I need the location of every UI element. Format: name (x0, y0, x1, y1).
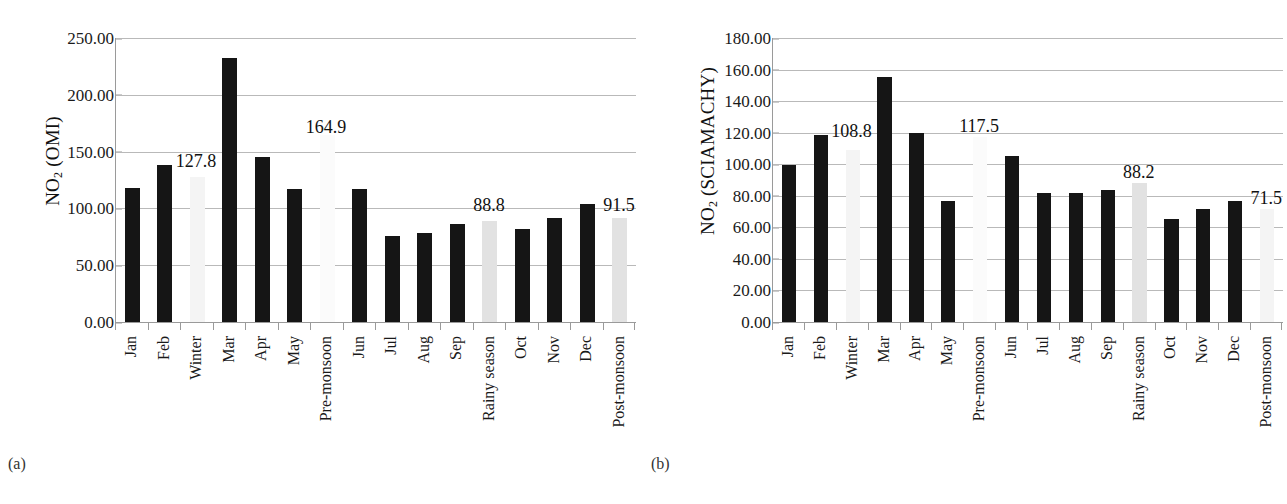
x-axis-label: Jul (1035, 336, 1051, 355)
x-axis-label: Winter (188, 336, 204, 380)
x-axis-label: Nov (546, 336, 562, 364)
panel-b: NO2 (SCIAMACHY) 180.00160.00140.00120.00… (643, 0, 1287, 504)
x-axis-label: Jun (351, 336, 367, 358)
x-tick-mark (804, 323, 836, 330)
x-axis-label: Jun (1003, 336, 1019, 358)
x-tick-mark (343, 323, 376, 330)
data-value-label: 91.5 (603, 196, 635, 214)
y-tick-label: 100.00 (724, 156, 771, 173)
x-tick-mark (603, 323, 636, 330)
x-axis-label: Feb (156, 336, 172, 360)
x-tick-mark (408, 323, 441, 330)
y-tick-label: 200.00 (67, 86, 114, 103)
x-axis-label: Dec (578, 336, 594, 362)
x-tick-mark (180, 323, 213, 330)
y-tick-label: 20.00 (733, 282, 771, 299)
x-axis-label: Apr (907, 336, 923, 361)
x-axis-label: Jan (123, 336, 139, 357)
y-tick-label: 100.00 (67, 200, 114, 217)
y-tick-label: 120.00 (724, 124, 771, 141)
x-axis-label: Jan (780, 336, 796, 357)
x-tick-mark (1123, 323, 1155, 330)
data-labels-b: 108.8117.588.271.5 (772, 38, 1282, 322)
panel-caption-a: (a) (8, 455, 26, 473)
x-axis-label: May (286, 336, 302, 365)
x-tick-mark (115, 323, 148, 330)
x-axis-label: Aug (416, 336, 432, 364)
x-tick-mark (772, 323, 804, 330)
x-tick-mark (931, 323, 963, 330)
y-tick-label: 140.00 (724, 93, 771, 110)
x-axis-label: Sep (1099, 336, 1115, 360)
y-tick-label: 50.00 (76, 257, 114, 274)
x-tick-mark (310, 323, 343, 330)
data-value-label: 108.8 (831, 122, 872, 140)
y-tick-label: 0.00 (84, 314, 114, 331)
x-tick-mark (1186, 323, 1218, 330)
x-axis-label: Rainy season (1131, 336, 1147, 421)
y-tick-label: 150.00 (67, 143, 114, 160)
y-tick-label: 80.00 (733, 187, 771, 204)
data-value-label: 71.5 (1250, 189, 1282, 207)
x-axis-label: Pre-monsoon (971, 336, 987, 421)
x-tick-mark (1218, 323, 1250, 330)
x-tick-mark (148, 323, 181, 330)
x-axis-label: Feb (812, 336, 828, 360)
x-axis-label: Mar (876, 336, 892, 363)
x-axis-label: Post-monsoon (1258, 336, 1274, 428)
data-labels-a: 127.8164.988.891.5 (115, 38, 635, 322)
y-tick-label: 0.00 (741, 314, 771, 331)
x-axis-label: Oct (513, 336, 529, 359)
x-axis-label: Post-monsoon (611, 336, 627, 428)
x-tick-mark (1091, 323, 1123, 330)
y-tick-label: 40.00 (733, 250, 771, 267)
x-tick-mark (213, 323, 246, 330)
x-axis-label: Rainy season (481, 336, 497, 421)
x-tick-mark (995, 323, 1027, 330)
x-axis-label: Apr (253, 336, 269, 361)
x-axis-label: Jul (383, 336, 399, 355)
x-axis-label: Sep (448, 336, 464, 360)
x-axis-label: Mar (221, 336, 237, 363)
y-tick-label: 60.00 (733, 219, 771, 236)
x-tick-mark (1027, 323, 1059, 330)
data-value-label: 88.8 (473, 196, 505, 214)
figure-container: NO2 (OMI) 250.00200.00150.00100.0050.000… (0, 0, 1287, 504)
y-axis-ticks-b: 180.00160.00140.00120.00100.0080.0060.00… (685, 38, 771, 322)
x-tick-mark (245, 323, 278, 330)
panel-caption-b: (b) (651, 455, 670, 473)
x-tick-mark (900, 323, 932, 330)
x-axis-label: Winter (844, 336, 860, 380)
x-tick-mark (570, 323, 603, 330)
x-tick-mark (375, 323, 408, 330)
x-tick-mark (278, 323, 311, 330)
x-axis-label: Dec (1226, 336, 1242, 362)
x-axis-label: May (939, 336, 955, 365)
data-value-label: 88.2 (1123, 163, 1155, 181)
y-axis-ticks-a: 250.00200.00150.00100.0050.000.00 (28, 38, 114, 322)
x-tick-mark (473, 323, 506, 330)
y-tick-label: 160.00 (724, 61, 771, 78)
x-tick-mark (1059, 323, 1091, 330)
x-tick-mark (538, 323, 571, 330)
x-tick-mark (963, 323, 995, 330)
x-tick-mark (868, 323, 900, 330)
x-axis-label: Oct (1162, 336, 1178, 359)
x-tick-mark (505, 323, 538, 330)
x-axis-ticks-a (115, 323, 635, 330)
y-tick-label: 250.00 (67, 30, 114, 47)
x-axis-label: Nov (1194, 336, 1210, 364)
x-tick-mark (440, 323, 473, 330)
data-value-label: 117.5 (959, 117, 999, 135)
x-tick-mark (1155, 323, 1187, 330)
x-tick-mark (836, 323, 868, 330)
x-axis-label: Pre-monsoon (318, 336, 334, 421)
y-tick-label: 180.00 (724, 30, 771, 47)
data-value-label: 127.8 (176, 152, 217, 170)
x-axis-ticks-b (772, 323, 1282, 330)
x-axis-label: Aug (1067, 336, 1083, 364)
x-tick-mark (1250, 323, 1282, 330)
panel-a: NO2 (OMI) 250.00200.00150.00100.0050.000… (0, 0, 643, 504)
data-value-label: 164.9 (306, 118, 347, 136)
